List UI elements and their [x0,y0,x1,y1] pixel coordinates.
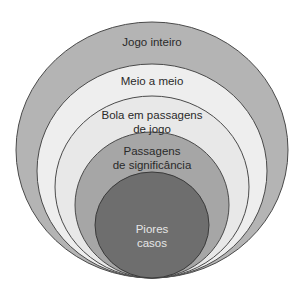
label-piores-2: casos [0,236,304,250]
label-bola-em-passagens-2: de jogo [0,122,304,136]
label-bola-em-passagens-1: Bola em passagens [0,108,304,122]
label-piores-1: Piores [0,222,304,236]
label-jogo-inteiro: Jogo inteiro [0,35,304,49]
label-meio-a-meio: Meio a meio [0,74,304,88]
label-passagens-2: de significância [0,158,304,172]
label-passagens-1: Passagens [0,144,304,158]
